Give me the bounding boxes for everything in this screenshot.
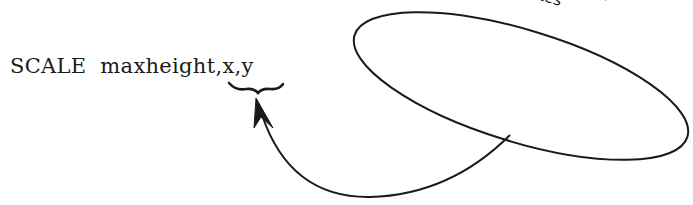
arrowhead-icon [254, 98, 273, 128]
brace-icon [229, 83, 283, 93]
